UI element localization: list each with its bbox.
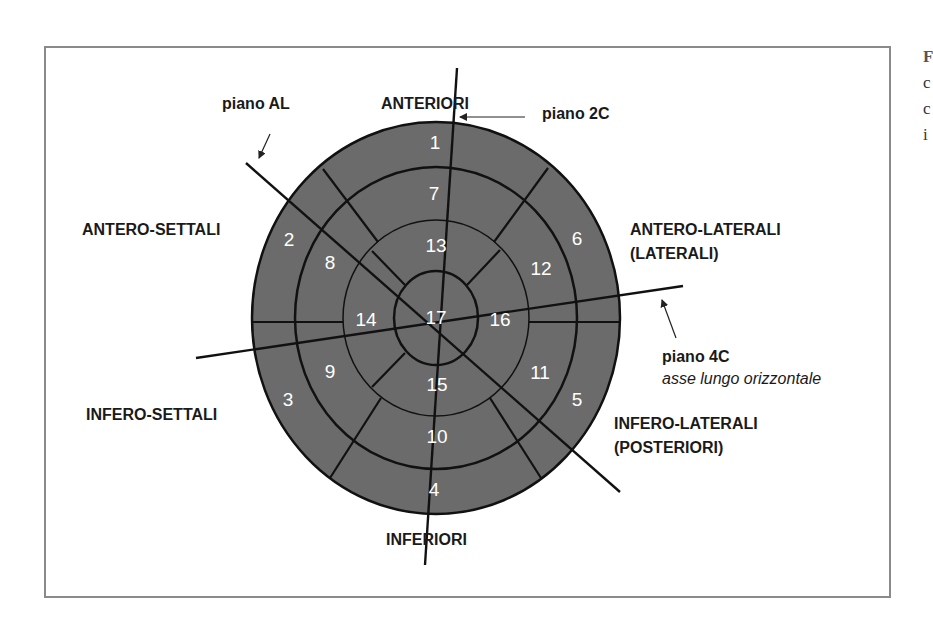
segment-4: 4 (429, 480, 440, 500)
label-infero-settali: INFERO-SETTALI (86, 405, 217, 425)
segment-13: 13 (425, 236, 446, 256)
segment-10: 10 (426, 427, 447, 447)
segment-14: 14 (355, 310, 376, 330)
label-anteriori: ANTERIORI (381, 94, 469, 114)
segment-11: 11 (530, 363, 550, 383)
label-posteriori: (POSTERIORI) (614, 438, 723, 458)
segment-15: 15 (426, 375, 447, 395)
segment-1: 1 (430, 133, 441, 153)
segment-12: 12 (530, 259, 551, 279)
segment-2: 2 (284, 230, 295, 250)
label-piano-4c: piano 4C (662, 347, 730, 367)
label-piano-2c: piano 2C (542, 104, 610, 124)
side-caption-line-2: c (923, 70, 931, 95)
label-inferiori: INFERIORI (386, 530, 467, 550)
arrow-4c (662, 300, 676, 338)
piano-al-text: piano AL (222, 95, 290, 112)
piano-2c-text: piano 2C (542, 105, 610, 122)
label-antero-laterali: ANTERO-LATERALI (630, 220, 781, 240)
side-caption-line-4: i (923, 122, 928, 147)
segment-8: 8 (325, 253, 336, 273)
segment-5: 5 (572, 390, 583, 410)
side-caption-line-3: c (923, 96, 931, 121)
segment-17: 17 (425, 308, 446, 328)
label-infero-laterali: INFERO-LATERALI (614, 414, 758, 434)
label-laterali: (LATERALI) (630, 244, 719, 264)
arrow-al (259, 134, 270, 158)
segment-7: 7 (429, 184, 440, 204)
label-antero-settali: ANTERO-SETTALI (82, 220, 220, 240)
label-piano-al: piano AL (222, 94, 290, 114)
segment-3: 3 (283, 390, 294, 410)
segment-6: 6 (572, 229, 583, 249)
side-caption-line-1: F (923, 44, 933, 69)
label-asse-lungo: asse lungo orizzontale (662, 369, 821, 389)
segment-16: 16 (489, 310, 510, 330)
segment-9: 9 (325, 362, 336, 382)
